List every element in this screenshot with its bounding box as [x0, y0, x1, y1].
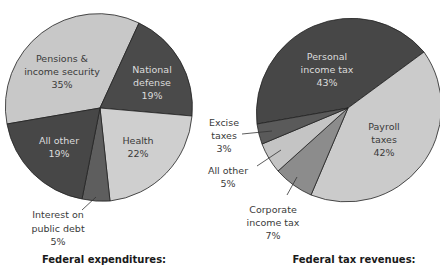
svg-text:Personal: Personal: [307, 51, 347, 62]
svg-text:income tax: income tax: [301, 64, 354, 75]
svg-text:Corporate: Corporate: [249, 204, 297, 215]
svg-text:19%: 19%: [141, 90, 162, 101]
svg-text:taxes: taxes: [211, 130, 237, 141]
pie-charts: Pensions & income security 35% National …: [0, 0, 440, 266]
svg-text:defense: defense: [133, 77, 171, 88]
svg-text:income tax: income tax: [247, 217, 300, 228]
svg-text:Health: Health: [122, 135, 153, 146]
revenues-pie: [256, 18, 440, 202]
svg-text:taxes: taxes: [371, 134, 397, 145]
expenditures-title: Federal expenditures:: [42, 254, 166, 265]
svg-text:income security: income security: [24, 66, 100, 77]
svg-text:Excise: Excise: [209, 117, 239, 128]
svg-text:Pensions &: Pensions &: [36, 53, 89, 64]
svg-text:All other: All other: [39, 135, 79, 146]
svg-text:42%: 42%: [373, 147, 394, 158]
svg-text:public debt: public debt: [31, 223, 85, 234]
svg-text:35%: 35%: [51, 79, 72, 90]
revenues-title: Federal tax revenues:: [292, 254, 415, 265]
expenditures-pie: [5, 14, 192, 202]
svg-text:Payroll: Payroll: [368, 121, 400, 132]
svg-text:Interest on: Interest on: [32, 209, 83, 220]
svg-text:All other: All other: [208, 165, 248, 176]
svg-text:19%: 19%: [48, 148, 69, 159]
svg-text:3%: 3%: [216, 143, 231, 154]
svg-text:5%: 5%: [220, 178, 235, 189]
svg-text:43%: 43%: [316, 77, 337, 88]
svg-text:22%: 22%: [127, 148, 148, 159]
svg-text:National: National: [132, 64, 172, 75]
svg-text:5%: 5%: [50, 236, 65, 247]
svg-text:7%: 7%: [265, 230, 280, 241]
